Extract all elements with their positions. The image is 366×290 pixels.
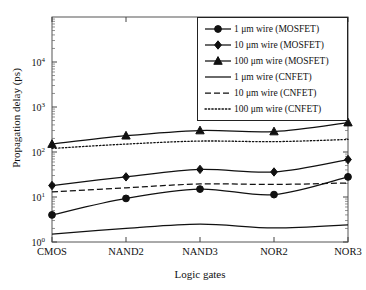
series-marker-1 [49, 181, 56, 189]
series-marker-0 [345, 173, 352, 180]
legend-label: 10 μm wire (CNFET) [234, 88, 316, 98]
y-tick-label-1: 101 [32, 191, 46, 203]
series-marker-0 [271, 191, 278, 198]
x-tick-label-nor3: NOR3 [334, 246, 361, 257]
legend-label: 1 μm wire (MOSFET) [234, 24, 319, 34]
series-marker-0 [197, 186, 204, 193]
legend-item: 1 μm wire (CNFET) [198, 69, 347, 85]
y-tick-label-3: 103 [32, 101, 46, 113]
figure: Propagation delay (ps) Logic gates CMOSN… [0, 0, 366, 290]
legend-label: 100 μm wire (CNFET) [234, 104, 321, 114]
legend-label: 1 μm wire (CNFET) [234, 72, 312, 82]
series-line-0 [52, 177, 348, 215]
legend-symbol-icon [202, 54, 234, 68]
x-axis-label: Logic gates [52, 268, 348, 280]
legend-item: 100 μm wire (MOSFET) [198, 53, 347, 69]
series-marker-1 [271, 168, 278, 176]
series-marker-1 [197, 165, 204, 173]
legend-item: 100 μm wire (CNFET) [198, 101, 347, 117]
series-line-5 [52, 139, 348, 148]
series-marker-1 [123, 173, 130, 181]
legend-label: 10 μm wire (MOSFET) [234, 40, 324, 50]
legend-rows: 1 μm wire (MOSFET)10 μm wire (MOSFET)100… [198, 21, 347, 117]
y-tick-label-4: 104 [32, 56, 46, 68]
y-tick-label-0: 100 [32, 236, 46, 248]
legend-item: 1 μm wire (MOSFET) [198, 21, 347, 37]
series-marker-0 [49, 212, 56, 219]
series-line-3 [52, 224, 348, 234]
legend-symbol-icon [202, 70, 234, 84]
legend-symbol-icon [202, 38, 234, 52]
legend-symbol-icon [202, 22, 234, 36]
y-tick-label-2: 102 [32, 146, 46, 158]
legend: 1 μm wire (MOSFET)10 μm wire (MOSFET)100… [197, 17, 348, 121]
legend-label: 100 μm wire (MOSFET) [234, 56, 329, 66]
y-axis-label: Propagation delay (ps) [10, 38, 22, 198]
legend-symbol-icon [202, 102, 234, 116]
x-tick-label-nor2: NOR2 [260, 246, 287, 257]
legend-symbol-icon [202, 86, 234, 100]
x-tick-label-nand2: NAND2 [108, 246, 144, 257]
legend-item: 10 μm wire (MOSFET) [198, 37, 347, 53]
series-marker-0 [123, 195, 130, 202]
legend-item: 10 μm wire (CNFET) [198, 85, 347, 101]
x-tick-label-nand3: NAND3 [182, 246, 218, 257]
